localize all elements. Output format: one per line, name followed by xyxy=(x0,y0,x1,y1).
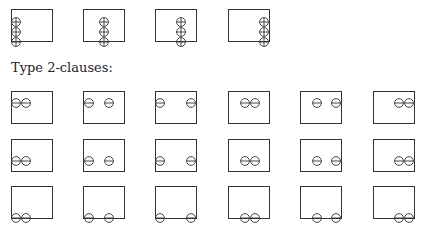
oplus-icon xyxy=(11,22,21,32)
oplus-icon xyxy=(259,32,269,42)
type1-clause-box xyxy=(228,9,270,42)
type1-clause-box xyxy=(11,9,53,42)
ominus-icon xyxy=(186,93,196,103)
ominus-icon xyxy=(155,93,165,103)
type2-clause-box xyxy=(155,186,197,219)
ominus-icon xyxy=(331,208,341,218)
type2-clause-box xyxy=(11,186,53,219)
ominus-icon xyxy=(404,93,414,103)
ominus-icon xyxy=(250,93,260,103)
type2-clause-box xyxy=(228,139,270,172)
type1-clause-box xyxy=(155,9,197,42)
type2-clause-box xyxy=(300,91,342,124)
oplus-icon xyxy=(176,32,186,42)
ominus-icon xyxy=(11,93,21,103)
ominus-icon xyxy=(240,208,250,218)
ominus-icon xyxy=(394,93,404,103)
type2-clause-box xyxy=(83,139,125,172)
ominus-icon xyxy=(250,208,260,218)
oplus-icon xyxy=(176,22,186,32)
type2-clause-box xyxy=(11,91,53,124)
ominus-icon xyxy=(11,151,21,161)
type2-clause-box xyxy=(300,139,342,172)
ominus-icon xyxy=(404,151,414,161)
type2-clause-box xyxy=(373,186,415,219)
type2-clause-box xyxy=(11,139,53,172)
type2-clause-box xyxy=(300,186,342,219)
ominus-icon xyxy=(104,93,114,103)
ominus-icon xyxy=(155,208,165,218)
ominus-icon xyxy=(186,208,196,218)
type2-clause-box xyxy=(83,186,125,219)
section-label: Type 2-clauses: xyxy=(11,60,113,75)
oplus-icon xyxy=(176,12,186,22)
oplus-icon xyxy=(259,22,269,32)
ominus-icon xyxy=(11,208,21,218)
ominus-icon xyxy=(84,208,94,218)
type2-clause-box xyxy=(228,91,270,124)
ominus-icon xyxy=(21,208,31,218)
oplus-icon xyxy=(99,12,109,22)
type2-clause-box xyxy=(155,139,197,172)
ominus-icon xyxy=(312,208,322,218)
ominus-icon xyxy=(240,93,250,103)
ominus-icon xyxy=(84,93,94,103)
ominus-icon xyxy=(312,93,322,103)
ominus-icon xyxy=(186,151,196,161)
oplus-icon xyxy=(11,12,21,22)
ominus-icon xyxy=(250,151,260,161)
ominus-icon xyxy=(21,151,31,161)
oplus-icon xyxy=(99,22,109,32)
ominus-icon xyxy=(104,151,114,161)
type2-clause-box xyxy=(155,91,197,124)
ominus-icon xyxy=(331,151,341,161)
oplus-icon xyxy=(99,32,109,42)
ominus-icon xyxy=(84,151,94,161)
ominus-icon xyxy=(404,208,414,218)
ominus-icon xyxy=(312,151,322,161)
type1-clause-box xyxy=(83,9,125,42)
type2-clause-box xyxy=(373,139,415,172)
ominus-icon xyxy=(394,151,404,161)
oplus-icon xyxy=(259,12,269,22)
oplus-icon xyxy=(11,32,21,42)
type2-clause-box xyxy=(373,91,415,124)
type2-clause-box xyxy=(83,91,125,124)
ominus-icon xyxy=(394,208,404,218)
ominus-icon xyxy=(104,208,114,218)
ominus-icon xyxy=(21,93,31,103)
type2-clause-box xyxy=(228,186,270,219)
ominus-icon xyxy=(155,151,165,161)
ominus-icon xyxy=(240,151,250,161)
ominus-icon xyxy=(331,93,341,103)
